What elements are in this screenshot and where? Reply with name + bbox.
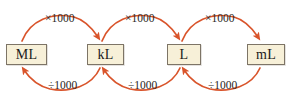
unit-box-milliliter: mL [247,44,285,65]
unit-box-kiloliter: kL [87,44,124,65]
divide-label-L-to-kL: ÷1000 [128,80,157,92]
multiply-label-kL-to-L: ×1000 [125,13,155,25]
divide-label-kL-to-ML: ÷1000 [48,80,77,92]
multiply-label-ML-to-kL: ×1000 [45,13,75,25]
unit-label-megaliter: ML [16,47,38,61]
unit-label-kiloliter: kL [97,47,113,61]
multiply-label-L-to-mL: ×1000 [205,13,235,25]
unit-box-liter: L [167,44,201,65]
unit-label-milliliter: mL [256,47,276,61]
unit-conversion-diagram: ML kL L mL ×1000 ×1000 ×1000 ÷1000 ÷1000… [0,0,291,102]
unit-box-megaliter: ML [6,44,47,65]
unit-label-liter: L [180,47,189,61]
divide-label-mL-to-L: ÷1000 [208,80,237,92]
